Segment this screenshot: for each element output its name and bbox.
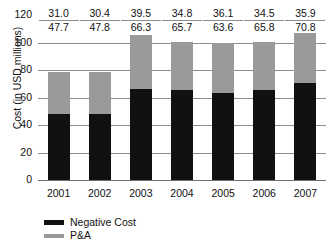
bar-group-2002 <box>89 72 111 180</box>
legend-item-negative-cost: Negative Cost <box>44 216 136 229</box>
data-label-negative-cost-2002: 47.8 <box>80 22 120 34</box>
bar-segment-pa-2003 <box>130 35 152 89</box>
bar-group-2005 <box>212 43 234 180</box>
bar-segment-pa-2006 <box>253 42 275 89</box>
bar-segment-negative-cost-2002 <box>89 114 111 180</box>
x-axis-tick-2004: 2004 <box>160 187 204 199</box>
data-label-negative-cost-2004: 65.7 <box>162 22 202 34</box>
bar-segment-pa-2002 <box>89 72 111 114</box>
data-label-pa-2003: 39.5 <box>121 8 161 20</box>
data-label-negative-cost-2007: 70.8 <box>285 22 325 34</box>
bar-segment-pa-2001 <box>48 72 70 115</box>
bar-segment-negative-cost-2007 <box>294 83 316 180</box>
data-label-negative-cost-2005: 63.6 <box>203 22 243 34</box>
data-label-pa-2007: 35.9 <box>285 8 325 20</box>
x-axis-tick-2001: 2001 <box>37 187 81 199</box>
x-axis-tick-2007: 2007 <box>283 187 327 199</box>
bar-group-2001 <box>48 72 70 180</box>
legend-item-pa: P&A <box>44 229 136 242</box>
bar-segment-pa-2004 <box>171 42 193 90</box>
x-axis-tick-2002: 2002 <box>78 187 122 199</box>
bar-segment-negative-cost-2003 <box>130 89 152 180</box>
y-axis-tick-40: 40 <box>0 119 32 130</box>
data-label-pa-2006: 34.5 <box>244 8 284 20</box>
bar-group-2007 <box>294 33 316 180</box>
data-label-2003: 39.566.3 <box>121 8 161 33</box>
data-label-2004: 34.865.7 <box>162 8 202 33</box>
y-axis-tick-80: 80 <box>0 64 32 75</box>
chart-legend: Negative Cost P&A <box>44 216 136 242</box>
legend-label-negative-cost: Negative Cost <box>70 217 136 228</box>
data-label-2001: 31.047.7 <box>39 8 79 33</box>
plot-area <box>38 10 326 185</box>
bar-group-2004 <box>171 42 193 180</box>
data-label-pa-2002: 30.4 <box>80 8 120 20</box>
legend-swatch-pa <box>44 234 64 238</box>
bar-segment-pa-2007 <box>294 33 316 82</box>
bar-segment-negative-cost-2004 <box>171 90 193 180</box>
y-axis-tick-60: 60 <box>0 92 32 103</box>
data-label-pa-2001: 31.0 <box>39 8 79 20</box>
data-label-2005: 36.163.6 <box>203 8 243 33</box>
data-label-2007: 35.970.8 <box>285 8 325 33</box>
bar-segment-negative-cost-2006 <box>253 90 275 180</box>
x-axis-tick-2003: 2003 <box>119 187 163 199</box>
y-axis-tick-20: 20 <box>0 147 32 158</box>
y-axis-tick-100: 100 <box>0 37 32 48</box>
y-axis-tick-0: 0 <box>0 174 32 185</box>
bar-group-2006 <box>253 42 275 180</box>
bar-group-2003 <box>130 35 152 180</box>
data-label-pa-2004: 34.8 <box>162 8 202 20</box>
x-axis-tick-2006: 2006 <box>242 187 286 199</box>
x-axis-line <box>38 180 326 181</box>
y-axis-tick-120: 120 <box>0 9 32 20</box>
data-label-2002: 30.447.8 <box>80 8 120 33</box>
data-label-pa-2005: 36.1 <box>203 8 243 20</box>
data-label-negative-cost-2006: 65.8 <box>244 22 284 34</box>
stacked-bar-chart: Cost (in USD millions) 020406080100120 3… <box>0 0 329 248</box>
bar-segment-negative-cost-2001 <box>48 114 70 180</box>
x-axis-tick-2005: 2005 <box>201 187 245 199</box>
legend-swatch-negative-cost <box>44 220 64 225</box>
data-label-negative-cost-2001: 47.7 <box>39 22 79 34</box>
data-label-negative-cost-2003: 66.3 <box>121 22 161 34</box>
bar-segment-pa-2005 <box>212 43 234 93</box>
data-label-2006: 34.565.8 <box>244 8 284 33</box>
legend-label-pa: P&A <box>70 230 91 241</box>
bar-segment-negative-cost-2005 <box>212 93 234 180</box>
